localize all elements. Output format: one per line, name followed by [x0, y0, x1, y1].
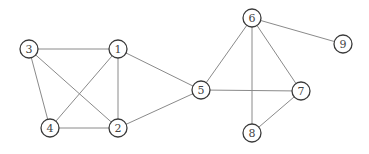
node-1: 1	[109, 40, 127, 58]
node-label: 8	[249, 127, 256, 140]
nodes-layer: 123456789	[20, 9, 352, 142]
edge-1-4	[50, 49, 118, 128]
node-label: 1	[115, 43, 122, 56]
edge-2-5	[118, 90, 201, 128]
edge-6-7	[252, 18, 301, 91]
node-8: 8	[243, 124, 261, 142]
node-3: 3	[20, 40, 38, 58]
edge-5-6	[201, 18, 252, 90]
edge-7-8	[252, 91, 301, 133]
edge-1-5	[118, 49, 201, 90]
node-label: 3	[26, 43, 33, 56]
node-label: 5	[198, 84, 205, 97]
node-label: 7	[298, 85, 305, 98]
edge-3-4	[29, 49, 50, 128]
edge-6-9	[252, 18, 343, 44]
node-9: 9	[334, 35, 352, 53]
node-6: 6	[243, 9, 261, 27]
node-label: 2	[115, 122, 122, 135]
edges-layer	[29, 18, 343, 133]
node-label: 4	[47, 122, 54, 135]
graph-diagram: 123456789	[0, 0, 369, 154]
node-label: 6	[249, 12, 256, 25]
edge-5-7	[201, 90, 301, 91]
edge-3-2	[29, 49, 118, 128]
node-2: 2	[109, 119, 127, 137]
node-7: 7	[292, 82, 310, 100]
node-label: 9	[340, 38, 347, 51]
node-4: 4	[41, 119, 59, 137]
node-5: 5	[192, 81, 210, 99]
